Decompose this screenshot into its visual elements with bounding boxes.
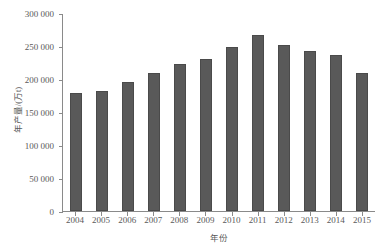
- bar-slot: [63, 14, 89, 211]
- bar-slot: [193, 14, 219, 211]
- bar: [122, 82, 134, 211]
- x-axis-tick-label: 2015: [349, 215, 375, 225]
- bar: [174, 64, 186, 211]
- y-axis-tick-label: 0: [50, 207, 55, 217]
- x-axis-tick-label: 2007: [140, 215, 166, 225]
- bar-slot: [167, 14, 193, 211]
- y-axis-tick-label: 250 000: [25, 42, 54, 52]
- x-axis-tick-label: 2012: [271, 215, 297, 225]
- bar: [148, 73, 160, 211]
- y-axis-tick-label: 200 000: [25, 75, 54, 85]
- bar-slot: [297, 14, 323, 211]
- bar-slot: [219, 14, 245, 211]
- x-axis-tick-label: 2008: [166, 215, 192, 225]
- y-axis-tick-label: 100 000: [25, 141, 54, 151]
- bar-slot: [89, 14, 115, 211]
- x-axis-tick-label: 2009: [192, 215, 218, 225]
- bar: [304, 51, 316, 211]
- bar-slot: [271, 14, 297, 211]
- bar-series: [63, 14, 375, 211]
- bar-chart: 年产量/(万t) 050 000100 000150 000200 000250…: [0, 0, 383, 249]
- x-axis-tick-labels: 2004200520062007200820092010201120122013…: [62, 215, 375, 225]
- bar-slot: [323, 14, 349, 211]
- bar-slot: [349, 14, 375, 211]
- plot-area: [62, 14, 375, 212]
- bar-slot: [141, 14, 167, 211]
- bar: [330, 55, 342, 211]
- y-axis-tick-label: 300 000: [25, 9, 54, 19]
- bar-slot: [115, 14, 141, 211]
- bar: [200, 59, 212, 211]
- bar: [356, 73, 368, 211]
- bar: [96, 91, 108, 211]
- bar-slot: [245, 14, 271, 211]
- bar: [226, 47, 238, 211]
- x-axis-tick-label: 2006: [114, 215, 140, 225]
- y-axis-tick-label: 50 000: [29, 174, 54, 184]
- bar: [278, 45, 290, 211]
- x-axis-tick-label: 2004: [62, 215, 88, 225]
- x-axis-tick-label: 2014: [323, 215, 349, 225]
- bar: [252, 35, 264, 211]
- y-axis-tick-labels: 050 000100 000150 000200 000250 000300 0…: [0, 0, 62, 249]
- y-axis-tick-label: 150 000: [25, 108, 54, 118]
- bar: [70, 93, 82, 211]
- x-axis-tick-label: 2010: [218, 215, 244, 225]
- x-axis-tick-label: 2005: [88, 215, 114, 225]
- x-axis-tick-label: 2013: [297, 215, 323, 225]
- x-axis-tick-label: 2011: [245, 215, 271, 225]
- x-axis-title: 年份: [62, 231, 375, 243]
